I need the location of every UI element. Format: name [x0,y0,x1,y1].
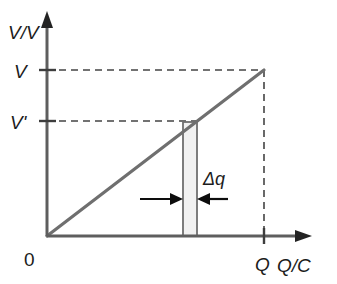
diagram-canvas: V/V Q/C V V' Q 0 Δq [0,0,337,284]
delta-q-arrow-left-head-icon [170,193,183,205]
x-axis-label: Q/C [277,255,311,276]
y-tick-label-v: V [14,61,29,82]
x-axis-arrow-icon [295,230,312,242]
delta-q-label: Δq [202,169,225,189]
delta-q-arrow-right-head-icon [197,193,210,205]
capacitor-energy-diagram: V/V Q/C V V' Q 0 Δq [0,0,337,284]
x-tick-label-q: Q [255,254,270,275]
y-axis-arrow-icon [41,11,53,28]
origin-label: 0 [24,249,35,270]
voltage-charge-line [47,70,264,236]
delta-q-strip [183,122,197,236]
y-tick-label-vprime: V' [10,112,28,133]
y-axis-label: V/V [8,22,41,43]
